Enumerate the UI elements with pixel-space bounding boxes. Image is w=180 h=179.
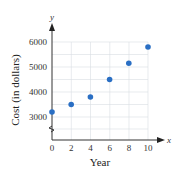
x-tick: 8: [127, 143, 132, 153]
y-tick: 3000: [29, 112, 48, 122]
data-point: [145, 44, 151, 50]
y-arrow-icon: [49, 23, 55, 31]
scatter-chart: y x 3000 4000 5000 6000 0 2 4 6 8 10 Yea…: [0, 0, 180, 179]
x-tick: 6: [108, 143, 113, 153]
x-axis-label: Year: [90, 156, 111, 168]
x-tick: 10: [144, 143, 154, 153]
x-arrow-icon: [157, 137, 165, 143]
grid: [52, 42, 148, 140]
x-tick: 0: [50, 143, 55, 153]
y-tick: 5000: [29, 62, 48, 72]
data-point: [107, 77, 113, 83]
x-tick-labels: 0 2 4 6 8 10: [50, 143, 153, 153]
y-tick: 6000: [29, 37, 48, 47]
x-tick: 2: [69, 143, 74, 153]
y-tick: 4000: [29, 87, 48, 97]
y-axis-symbol: y: [49, 12, 54, 22]
data-point: [68, 102, 74, 108]
x-tick: 4: [88, 143, 93, 153]
data-point: [49, 109, 55, 115]
data-point: [88, 94, 94, 100]
data-point: [126, 60, 132, 66]
y-axis-label: Cost (in dollars): [9, 54, 22, 126]
y-tick-labels: 3000 4000 5000 6000: [29, 37, 48, 122]
x-axis-symbol: x: [166, 135, 171, 145]
axes: [49, 28, 160, 140]
